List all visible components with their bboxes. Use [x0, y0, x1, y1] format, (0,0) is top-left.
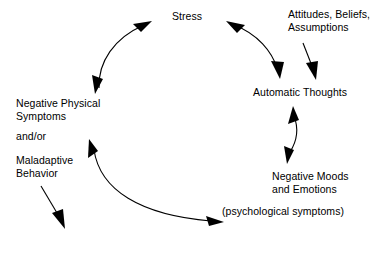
node-label-attitudes-beliefs-assumptions: Attitudes, Beliefs, Assumptions: [288, 8, 370, 34]
connector-attitudes-to-thoughts: [303, 43, 318, 80]
connector-stress-to-thoughts: [226, 21, 284, 79]
node-label-negative-physical-symptoms: Negative Physical Symptoms: [16, 97, 100, 123]
arrowhead-attitudes-to-thoughts: [306, 61, 318, 80]
connector-moods-to-physical: [88, 139, 224, 226]
connector-maladaptive-outgoing: [41, 186, 65, 229]
node-label-stress: Stress: [172, 10, 202, 23]
node-label-automatic-thoughts: Automatic Thoughts: [253, 86, 347, 99]
connector-thoughts-to-moods: [284, 106, 299, 164]
connector-stress-to-physical: [92, 21, 152, 94]
arrowhead-to-maladaptive: [88, 139, 98, 158]
node-label-negative-moods-and-emotions: Negative Moods and Emotions: [272, 170, 349, 196]
arrowhead-to-stress-right: [226, 21, 245, 33]
arrowhead-to-physical: [92, 75, 103, 94]
arrowhead-to-thoughts-up: [288, 106, 299, 124]
arrowhead-to-stress: [133, 21, 152, 32]
arrowhead-maladaptive-outgoing: [52, 209, 65, 229]
node-label-psychological-symptoms: (psychological symptoms): [222, 205, 344, 218]
arrowhead-to-thoughts: [271, 61, 284, 79]
stress-cycle-diagram: Stress Attitudes, Beliefs, Assumptions A…: [0, 0, 384, 254]
node-label-and-or: and/or: [16, 130, 46, 143]
node-label-maladaptive-behavior: Maladaptive Behavior: [16, 154, 73, 180]
